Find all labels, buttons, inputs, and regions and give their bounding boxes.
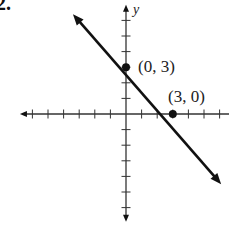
y-axis-down-arrow-icon: [123, 215, 129, 222]
point-label-0-3: (0, 3): [138, 57, 175, 77]
point-label-3-0: (3, 0): [168, 87, 205, 107]
coordinate-graph: [0, 0, 229, 228]
point-dot: [122, 63, 130, 71]
x-axis-left-arrow-icon: [20, 111, 27, 117]
y-axis-up-arrow-icon: [123, 5, 129, 12]
axes: [20, 5, 229, 222]
point-dot: [169, 110, 177, 118]
y-axis-label: y: [133, 2, 139, 18]
